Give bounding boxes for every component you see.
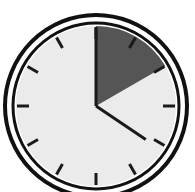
clock-graphic: [0, 0, 195, 192]
clock-figure: 12:00 Hour hand at 12, minute hand towar…: [0, 0, 195, 192]
